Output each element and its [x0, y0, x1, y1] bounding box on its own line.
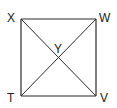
intersection-label-y: Y — [54, 42, 62, 56]
vertex-label-t: T — [7, 91, 15, 105]
vertex-label-v: V — [100, 91, 108, 105]
square-diagram: X W T V Y — [0, 0, 117, 108]
vertex-label-x: X — [7, 11, 15, 25]
vertex-label-w: W — [99, 11, 111, 25]
